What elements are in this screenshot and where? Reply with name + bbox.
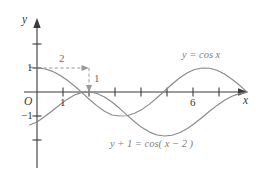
y-axis-arrowhead bbox=[33, 18, 40, 28]
origin-label: O bbox=[24, 96, 32, 108]
curve-label-shifted-lhs: y + 1 = cos bbox=[110, 138, 159, 149]
shift-arrow-horizontal-head bbox=[82, 65, 90, 71]
y-tick-label-neg-1: −1 bbox=[21, 110, 33, 121]
curve-label-shifted: y + 1 = cos( x − 2 ) bbox=[110, 139, 193, 150]
x-axis-label: x bbox=[243, 95, 248, 107]
curve-label-shifted-arg: ( x − 2 ) bbox=[159, 138, 194, 149]
y-tick-label-1: 1 bbox=[27, 62, 33, 73]
horizontal-shift-label: 2 bbox=[59, 53, 65, 64]
x-axis-group bbox=[24, 88, 248, 97]
curve-label-cos-x: y = cos x bbox=[182, 50, 220, 61]
x-tick-label-1: 1 bbox=[60, 97, 66, 108]
shift-arrow-vertical bbox=[86, 68, 92, 93]
y-axis-label: y bbox=[22, 14, 27, 26]
y-axis-group bbox=[33, 18, 42, 168]
shift-arrow-horizontal bbox=[38, 65, 89, 71]
x-tick-label-6: 6 bbox=[190, 97, 196, 108]
vertical-shift-label: 1 bbox=[94, 73, 100, 84]
cosine-shift-figure: y x O 1 −1 1 6 2 1 y = cos x y + 1 = cos… bbox=[0, 0, 264, 174]
shift-arrow-vertical-head bbox=[86, 85, 92, 93]
